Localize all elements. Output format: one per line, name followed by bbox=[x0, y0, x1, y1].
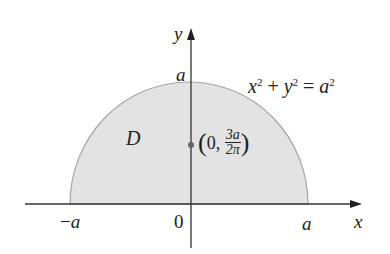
y-axis-label: y bbox=[174, 24, 182, 43]
centroid-dot bbox=[188, 142, 194, 148]
tick-neg-a: −a bbox=[60, 212, 80, 231]
circle-equation: x2 + y2 = a2 bbox=[248, 76, 335, 96]
y-axis-arrow-icon bbox=[187, 28, 195, 40]
tick-origin: 0 bbox=[174, 212, 184, 231]
semicircle-diagram bbox=[0, 0, 390, 254]
tick-pos-a: a bbox=[302, 214, 312, 233]
centroid-label: (0, 3a2π) bbox=[198, 128, 249, 157]
tick-top-a: a bbox=[176, 65, 186, 84]
x-axis-label: x bbox=[354, 212, 362, 231]
x-axis-arrow-icon bbox=[350, 200, 362, 208]
region-label: D bbox=[126, 128, 140, 148]
